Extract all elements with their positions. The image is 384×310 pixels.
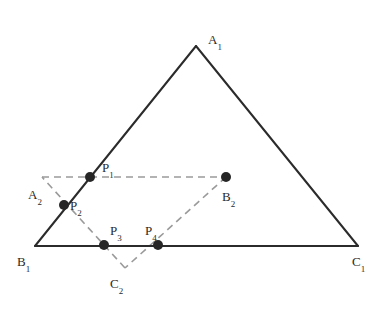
label-subscript: 1 [109, 170, 114, 180]
figure-background [0, 0, 384, 310]
point-label-p3: P3 [110, 224, 122, 237]
label-subscript: 1 [26, 264, 31, 274]
label-subscript: 1 [361, 264, 366, 274]
label-subscript: 2 [77, 208, 82, 218]
label-base: B [222, 189, 231, 204]
vertex-label-c2: C2 [110, 277, 123, 290]
point-marker-p1 [85, 172, 95, 182]
point-label-p1: P1 [102, 161, 114, 174]
label-base: A [28, 187, 37, 202]
label-subscript: 4 [152, 233, 157, 243]
label-subscript: 2 [37, 197, 42, 207]
point-marker-b2 [221, 172, 231, 182]
point-marker-p2 [59, 200, 69, 210]
vertex-label-c1: C1 [352, 255, 365, 268]
label-subscript: 2 [231, 199, 236, 209]
point-marker-p3 [99, 240, 109, 250]
label-base: A [208, 32, 217, 47]
point-label-p4: P4 [145, 224, 157, 237]
point-label-p2: P2 [70, 199, 82, 212]
label-base: B [17, 254, 26, 269]
vertex-label-b1: B1 [17, 255, 30, 268]
geometry-figure: A1B1C1A2B2C2P1P2P3P4 [0, 0, 384, 310]
label-base: C [110, 276, 119, 291]
label-subscript: 2 [119, 286, 124, 296]
vertex-label-a1: A1 [208, 33, 222, 46]
label-subscript: 3 [117, 233, 122, 243]
figure-canvas [0, 0, 384, 310]
label-base: C [352, 254, 361, 269]
vertex-label-b2: B2 [222, 190, 235, 203]
label-subscript: 1 [217, 42, 222, 52]
vertex-label-a2: A2 [28, 188, 42, 201]
